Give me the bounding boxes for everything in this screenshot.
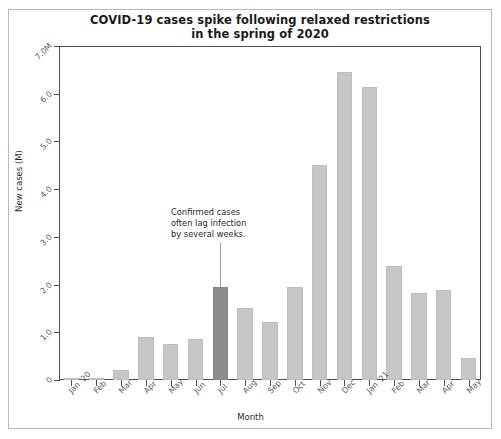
bar-oct: [287, 287, 302, 380]
bar-jun: [188, 339, 203, 381]
y-tick-label: 6.0: [0, 88, 51, 97]
y-tick: [54, 141, 60, 142]
bar-feb: [386, 266, 401, 381]
annotation-line-3: by several weeks.: [171, 229, 287, 240]
y-tick-label: 2.0: [0, 279, 51, 288]
y-tick: [54, 380, 60, 381]
y-tick-label: 3.0: [0, 231, 51, 240]
annotation-leader-line: [220, 243, 221, 287]
y-tick: [54, 285, 60, 286]
y-tick: [54, 332, 60, 333]
y-tick: [54, 94, 60, 95]
bar-mar: [411, 293, 426, 380]
bar-nov: [312, 165, 327, 380]
y-tick-label: 7.0M: [0, 40, 51, 49]
bar-may: [461, 358, 476, 380]
chart-figure: COVID-19 cases spike following relaxed r…: [0, 0, 501, 439]
bar-may: [163, 344, 178, 380]
y-tick: [54, 237, 60, 238]
bar-sep: [262, 322, 277, 380]
y-tick-label: 1.0: [0, 326, 51, 335]
annotation-line-1: Confirmed cases: [171, 207, 287, 218]
annotation-line-2: often lag infection: [171, 218, 287, 229]
bar-aug: [237, 308, 252, 380]
bar-jul: [213, 287, 228, 380]
chart-annotation: Confirmed cases often lag infection by s…: [171, 207, 287, 240]
x-axis-title: Month: [0, 412, 501, 422]
y-tick: [54, 189, 60, 190]
bar-dec: [337, 72, 352, 380]
y-tick-label: 5.0: [0, 135, 51, 144]
y-tick-label: 0: [0, 374, 51, 383]
y-tick: [54, 46, 60, 47]
bar-jan21: [362, 87, 377, 380]
bar-apr: [436, 290, 451, 380]
y-tick-label: 4.0: [0, 183, 51, 192]
bar-apr: [138, 337, 153, 380]
